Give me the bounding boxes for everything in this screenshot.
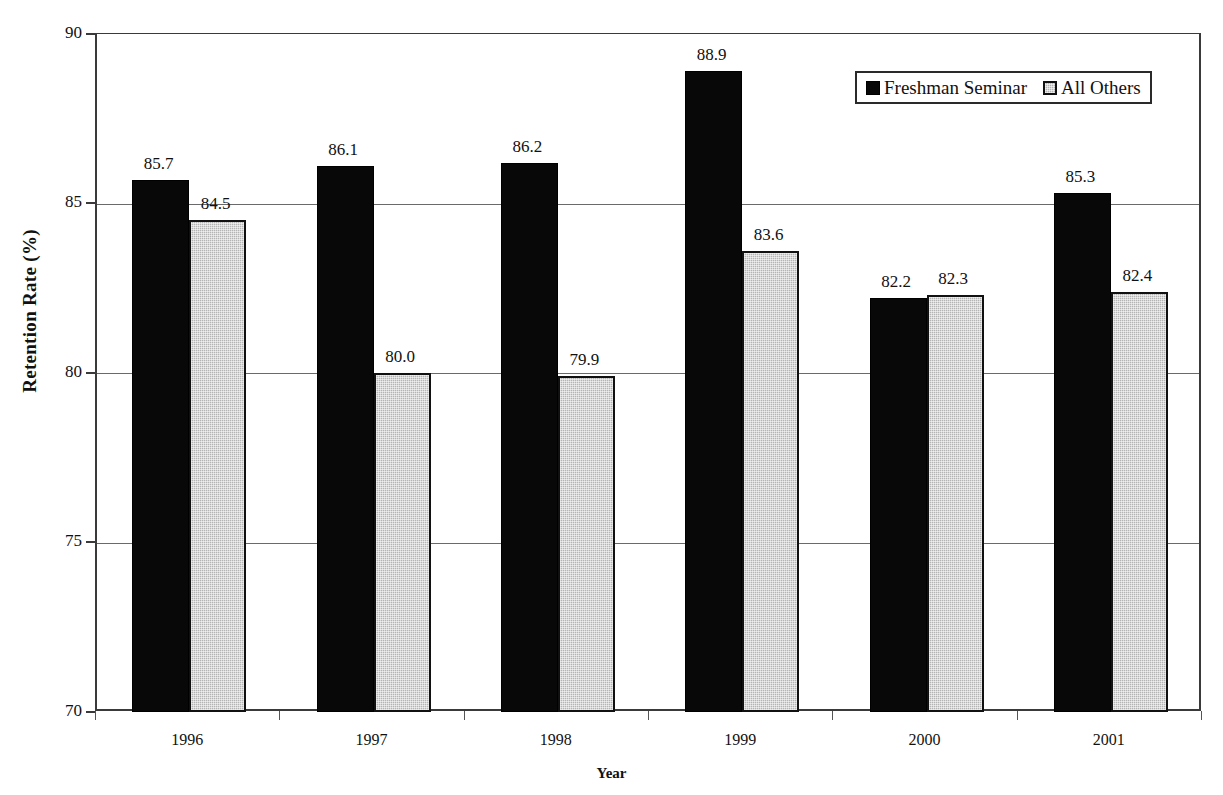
x-tick-label: 1999: [724, 731, 756, 749]
bar[interactable]: [870, 298, 927, 712]
bar[interactable]: [927, 295, 984, 712]
x-tick-mark: [648, 711, 649, 720]
x-tick-mark: [832, 711, 833, 720]
bar[interactable]: [189, 220, 246, 712]
legend-item-freshman-seminar[interactable]: Freshman Seminar: [866, 77, 1027, 99]
x-tick-label: 1998: [540, 731, 572, 749]
x-tick-label: 2001: [1093, 731, 1125, 749]
gridline: [97, 373, 1199, 374]
bar[interactable]: [685, 71, 742, 712]
y-tick-label-90: 90: [20, 23, 82, 43]
plot-area: [95, 33, 1201, 711]
bar[interactable]: [501, 163, 558, 712]
bar[interactable]: [374, 373, 431, 712]
legend-label: All Others: [1061, 77, 1141, 99]
bar-value-label: 82.2: [881, 272, 911, 292]
legend-label: Freshman Seminar: [884, 77, 1027, 99]
x-tick-mark: [95, 711, 96, 720]
bar-value-label: 88.9: [697, 45, 727, 65]
bar-value-label: 85.7: [144, 154, 174, 174]
chart-title: [0, 0, 1223, 4]
bar-value-label: 80.0: [385, 347, 415, 367]
bar[interactable]: [1054, 193, 1111, 712]
bar[interactable]: [558, 376, 615, 712]
bar[interactable]: [132, 180, 189, 712]
x-tick-mark: [1201, 711, 1202, 720]
x-tick-mark: [1017, 711, 1018, 720]
y-tick-label-70: 70: [20, 701, 82, 721]
bar-value-label: 85.3: [1065, 167, 1095, 187]
y-tick-label-85: 85: [20, 192, 82, 212]
x-tick-mark: [279, 711, 280, 720]
bar[interactable]: [1111, 292, 1168, 712]
bar-value-label: 86.2: [512, 137, 542, 157]
x-axis-title: Year: [0, 765, 1223, 782]
gridline: [97, 543, 1199, 544]
bar-value-label: 84.5: [201, 194, 231, 214]
x-tick-label: 1997: [356, 731, 388, 749]
x-tick-label: 1996: [171, 731, 203, 749]
bar-value-label: 82.4: [1122, 266, 1152, 286]
bar-value-label: 79.9: [569, 350, 599, 370]
bar[interactable]: [317, 166, 374, 712]
legend: Freshman Seminar All Others: [855, 71, 1152, 104]
legend-swatch-icon: [866, 81, 880, 95]
legend-swatch-icon: [1043, 81, 1057, 95]
x-tick-label: 2000: [909, 731, 941, 749]
bar[interactable]: [742, 251, 799, 712]
bar-value-label: 83.6: [754, 225, 784, 245]
y-tick-label-75: 75: [20, 531, 82, 551]
bar-value-label: 82.3: [938, 269, 968, 289]
gridline: [97, 204, 1199, 205]
bar-value-label: 86.1: [328, 140, 358, 160]
x-tick-mark: [464, 711, 465, 720]
y-tick-label-80: 80: [20, 362, 82, 382]
legend-item-all-others[interactable]: All Others: [1043, 77, 1141, 99]
